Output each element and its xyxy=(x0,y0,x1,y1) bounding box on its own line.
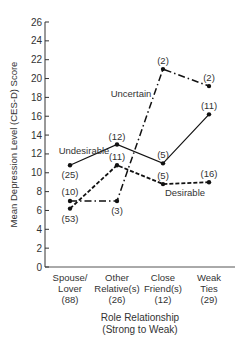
n-label: (5) xyxy=(157,149,169,160)
data-point xyxy=(161,161,165,165)
n-label: (5) xyxy=(157,170,169,181)
data-point xyxy=(207,180,211,184)
y-tick-label: 12 xyxy=(31,148,43,159)
data-point xyxy=(115,142,119,146)
n-label: (53) xyxy=(62,213,79,224)
series-name-label: Uncertain xyxy=(111,88,152,99)
n-label: (12) xyxy=(109,131,126,142)
y-tick-label: 2 xyxy=(36,243,42,254)
data-point xyxy=(115,163,119,167)
y-tick-label: 20 xyxy=(31,73,43,84)
y-tick-label: 14 xyxy=(31,130,43,141)
x-axis-label: Role Relationship xyxy=(101,312,180,323)
series-name-label: Undesirable xyxy=(59,145,110,156)
line-chart: 02468101214161820222426Mean Depression L… xyxy=(0,0,251,340)
y-tick-label: 8 xyxy=(36,186,42,197)
data-point xyxy=(68,206,72,210)
x-category-label: (12) xyxy=(155,294,172,305)
y-tick-label: 10 xyxy=(31,167,43,178)
x-category-label: Friend(s) xyxy=(144,283,182,294)
n-label: (25) xyxy=(62,169,79,180)
n-label: (2) xyxy=(157,55,169,66)
data-point xyxy=(161,67,165,71)
n-label: (10) xyxy=(62,186,79,197)
data-point xyxy=(161,182,165,186)
y-tick-label: 16 xyxy=(31,111,43,122)
x-category-label: Ties xyxy=(200,283,218,294)
x-category-label: Spouse/ xyxy=(53,272,88,283)
x-category-label: Relative(s) xyxy=(94,283,139,294)
series-line-undesirable xyxy=(70,114,209,165)
y-axis-label: Mean Depression Level (CES-D) Score xyxy=(8,62,19,228)
n-label: (11) xyxy=(201,100,217,111)
n-label: (3) xyxy=(111,205,123,216)
y-tick-label: 0 xyxy=(36,262,42,273)
y-tick-label: 22 xyxy=(31,54,43,65)
data-point xyxy=(68,163,72,167)
x-category-label: Weak xyxy=(197,272,221,283)
x-category-label: Lover xyxy=(58,283,82,294)
y-tick-label: 6 xyxy=(36,205,42,216)
n-label: (16) xyxy=(201,168,218,179)
x-axis-label: (Strong to Weak) xyxy=(102,324,177,335)
x-category-label: Close xyxy=(151,272,175,283)
data-point xyxy=(207,84,211,88)
y-tick-label: 4 xyxy=(36,224,42,235)
x-category-label: Other xyxy=(105,272,129,283)
x-category-label: (29) xyxy=(201,294,218,305)
data-point xyxy=(207,112,211,116)
n-label: (2) xyxy=(203,72,215,83)
y-tick-label: 26 xyxy=(31,17,43,28)
n-label: (11) xyxy=(109,151,125,162)
x-category-label: (88) xyxy=(62,294,79,305)
x-category-label: (26) xyxy=(109,294,126,305)
data-point xyxy=(115,199,119,203)
series-name-label: Desirable xyxy=(165,187,205,198)
data-point xyxy=(68,199,72,203)
y-tick-label: 18 xyxy=(31,92,43,103)
y-tick-label: 24 xyxy=(31,35,43,46)
